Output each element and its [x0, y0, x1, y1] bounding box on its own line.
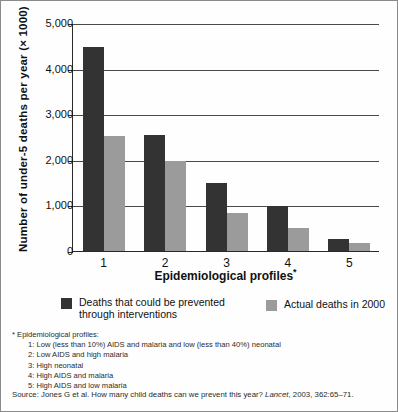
footnotes-block: * Epidemiological profiles: 1: Low (less… — [12, 330, 392, 391]
bar-group — [144, 24, 186, 251]
x-axis-title-text: Epidemiological profiles — [154, 269, 293, 283]
legend-swatch-light-icon — [266, 300, 277, 311]
bar — [144, 135, 165, 251]
bar — [227, 213, 248, 251]
ytick-label-2000: 2,000 — [13, 155, 73, 166]
bar-group — [206, 24, 248, 251]
source-citation: Source: Jones G et al. How many child de… — [12, 390, 392, 399]
bar — [206, 183, 227, 251]
legend-item-prevented: Deaths that could be prevented through i… — [61, 297, 246, 320]
x-axis-title-marker: * — [293, 267, 297, 277]
ytick-label-5000: 5,000 — [13, 18, 73, 29]
ytick-label-0: 0 — [13, 246, 73, 257]
bar — [83, 47, 104, 251]
bar-group — [83, 24, 125, 251]
source-suffix: , 2003, 362:65–71. — [289, 390, 354, 399]
bar-group — [267, 24, 309, 251]
footnote-item: 2: Low AIDS and high malaria — [28, 350, 392, 360]
footnote-heading: * Epidemiological profiles: — [12, 330, 392, 340]
chart-figure: Number of under-5 deaths per year (× 100… — [0, 0, 398, 412]
legend-label-actual: Actual deaths in 2000 — [284, 299, 385, 311]
bar — [165, 161, 186, 251]
bar — [328, 239, 349, 251]
legend-swatch-dark-icon — [61, 298, 72, 309]
bar — [267, 206, 288, 251]
x-axis-title: Epidemiological profiles* — [72, 267, 379, 283]
ytick-label-4000: 4,000 — [13, 64, 73, 75]
y-axis-title: Number of under-5 deaths per year (× 100… — [17, 4, 29, 254]
footnote-item: 4: High AIDS and malaria — [28, 371, 392, 381]
source-prefix: Source: Jones G et al. How many child de… — [12, 390, 265, 399]
plot-area: 5,000 4,000 3,000 2,000 1,000 0 12345 — [72, 24, 379, 252]
footnote-item: 3: High neonatal — [28, 361, 392, 371]
bar — [349, 243, 370, 251]
legend-label-prevented: Deaths that could be prevented through i… — [79, 297, 246, 320]
ytick-label-1000: 1,000 — [13, 200, 73, 211]
footnote-list: 1: Low (less than 10%) AIDS and malaria … — [12, 340, 392, 391]
source-journal: Lancet — [265, 390, 288, 399]
bar — [104, 136, 125, 251]
ytick-label-3000: 3,000 — [13, 109, 73, 120]
bar-group — [328, 24, 370, 251]
footnote-item: 1: Low (less than 10%) AIDS and malaria … — [28, 340, 392, 350]
bar — [288, 228, 309, 251]
bar-series-container — [73, 24, 379, 251]
legend-item-actual: Actual deaths in 2000 — [266, 299, 398, 311]
